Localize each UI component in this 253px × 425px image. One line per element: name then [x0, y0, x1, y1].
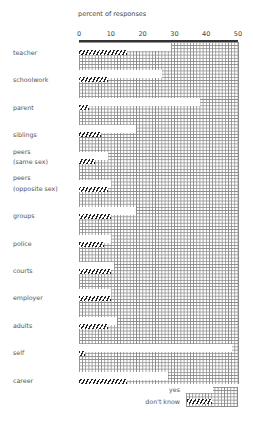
category-label: (same sex) — [13, 157, 48, 166]
dont-know-bar — [79, 351, 85, 356]
dont-know-bar — [79, 379, 127, 384]
dont-know-bar — [79, 77, 108, 82]
category-label: courts — [13, 266, 33, 275]
legend-yes-label: yes — [140, 386, 180, 393]
category-label: peers — [13, 147, 31, 156]
dont-know-bar — [79, 105, 89, 110]
category-label: employer — [13, 293, 43, 302]
x-tick-label: 10 — [107, 30, 115, 38]
dont-know-bar — [79, 324, 108, 329]
yes-bar — [79, 98, 200, 106]
category-label: (opposite sex) — [13, 184, 58, 193]
x-tick-label: 50 — [234, 30, 242, 38]
dont-know-bar — [79, 214, 111, 219]
dont-know-bar — [79, 296, 111, 301]
category-label: parent — [13, 103, 34, 112]
chart-title: percent of responses — [78, 10, 146, 18]
category-label: career — [13, 376, 33, 385]
dont-know-bar — [79, 187, 108, 192]
category-label: police — [13, 239, 32, 248]
category-label: adults — [13, 321, 32, 330]
legend-dont-know-label: don't know — [120, 398, 180, 405]
x-tick-label: 40 — [202, 30, 210, 38]
dont-know-bar — [79, 242, 104, 247]
x-tick-label: 20 — [138, 30, 146, 38]
dont-know-bar — [79, 159, 95, 164]
x-tick-label: 30 — [170, 30, 178, 38]
category-label: peers — [13, 173, 31, 182]
legend-yes-swatch — [186, 387, 213, 393]
category-label: groups — [13, 211, 35, 220]
legend-dont-know-swatch — [187, 399, 212, 404]
category-label: teacher — [13, 48, 37, 57]
category-label: schoolwork — [13, 75, 48, 84]
dont-know-bar — [79, 269, 111, 274]
x-tick-label: 0 — [77, 30, 81, 38]
yes-bar — [79, 344, 232, 352]
dont-know-bar — [79, 132, 101, 137]
dont-know-bar — [79, 50, 127, 55]
category-label: self — [13, 348, 24, 357]
category-label: siblings — [13, 130, 37, 139]
